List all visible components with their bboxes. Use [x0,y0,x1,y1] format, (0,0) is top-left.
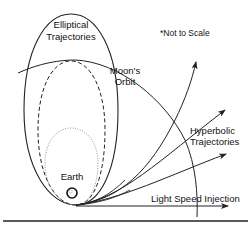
light-speed-injection-label: Light Speed Injection [151,193,240,204]
trajectory-diagram: Elliptical Trajectories *Not to Scale Mo… [0,0,251,227]
hyperbolic-label-line2: Trajectories [190,136,240,147]
earth-label: Earth [61,171,84,182]
dashed-elliptical-trajectory [38,61,105,205]
not-to-scale-note: *Not to Scale [160,28,210,38]
elliptical-label-line1: Elliptical [54,19,89,30]
hyperbolic-label-line1: Hyperbolic [190,125,235,136]
earth-icon [67,188,77,198]
moon-orbit-label-line1: Moon's [110,65,141,76]
moon-orbit-label-line2: Orbit [115,76,136,87]
elliptical-label-line2: Trajectories [46,31,96,42]
